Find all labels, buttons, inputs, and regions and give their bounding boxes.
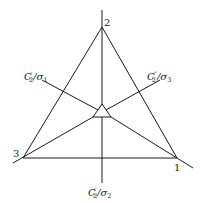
axis-label-c2-double-prime: C″2/σ2 — [88, 186, 111, 200]
label-sub: 2 — [152, 76, 156, 84]
label-sigma-sub: 1 — [43, 76, 47, 84]
label-sigma-sub: 3 — [167, 76, 171, 84]
edge-3-2 — [23, 27, 102, 158]
triangle-diagram: 2 3 1 C′2/σ1 C‴2/σ3 C″2/σ2 — [0, 0, 206, 203]
axis-c2-prime — [111, 117, 193, 168]
edge-2-1 — [102, 27, 177, 158]
inner-triangle — [93, 104, 111, 117]
label-sigma-sub: 2 — [107, 192, 111, 200]
axis-label-c2-triple-prime: C‴2/σ3 — [147, 70, 171, 84]
axis-label-c2-prime: C′2/σ1 — [24, 70, 48, 84]
vertex-label-1: 1 — [174, 162, 180, 173]
axis-c2-triple-prime-upper — [106, 80, 160, 110]
vertex-label-3: 3 — [13, 148, 19, 159]
axis-c2-triple-prime — [13, 117, 93, 163]
axis-c2-prime-upper — [42, 80, 98, 110]
vertex-label-2: 2 — [104, 17, 110, 28]
